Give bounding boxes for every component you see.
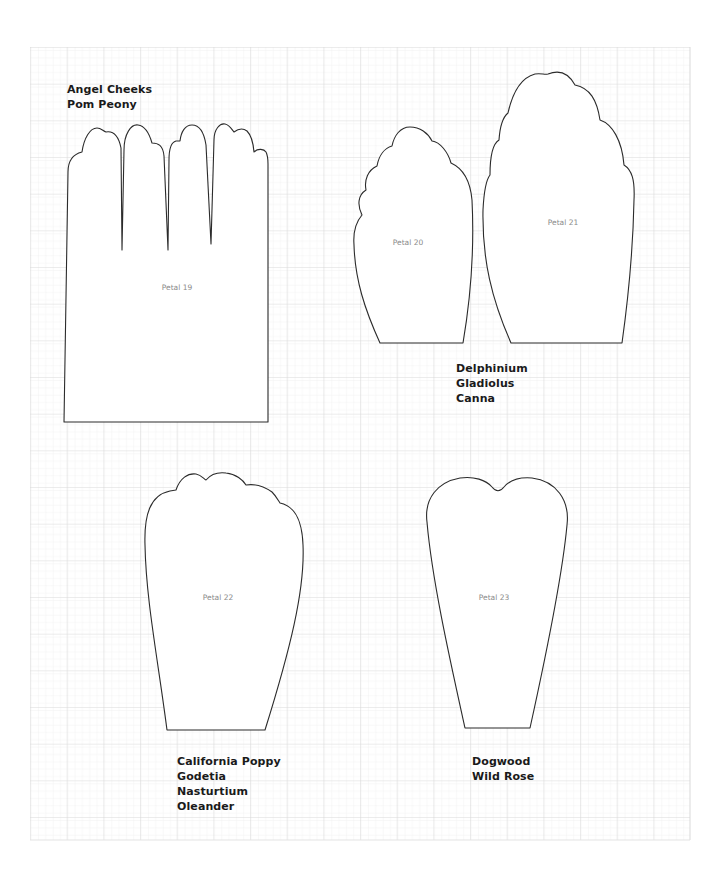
petal-19-label: Petal 19 (162, 283, 192, 292)
flower-list-petal-20-21: Delphinium Gladiolus Canna (456, 361, 528, 406)
flower-name: Gladiolus (456, 376, 528, 391)
flower-name: Angel Cheeks (67, 82, 152, 97)
flower-list-petal-22: California Poppy Godetia Nasturtium Olea… (177, 754, 281, 814)
petal-template-sheet: Petal 19 Petal 20 Petal 21 Petal 22 Peta… (0, 0, 719, 875)
petal-22-label: Petal 22 (203, 593, 233, 602)
flower-name: California Poppy (177, 754, 281, 769)
petal-23-label: Petal 23 (479, 593, 509, 602)
flower-name: Godetia (177, 769, 281, 784)
flower-name: Dogwood (472, 754, 534, 769)
grid-and-outlines (0, 0, 719, 875)
flower-name: Canna (456, 391, 528, 406)
petal-21-label: Petal 21 (548, 218, 578, 227)
flower-name: Delphinium (456, 361, 528, 376)
flower-name: Pom Peony (67, 97, 152, 112)
flower-list-petal-19: Angel Cheeks Pom Peony (67, 82, 152, 112)
flower-name: Wild Rose (472, 769, 534, 784)
petal-20-label: Petal 20 (393, 238, 423, 247)
flower-list-petal-23: Dogwood Wild Rose (472, 754, 534, 784)
flower-name: Nasturtium (177, 784, 281, 799)
flower-name: Oleander (177, 799, 281, 814)
